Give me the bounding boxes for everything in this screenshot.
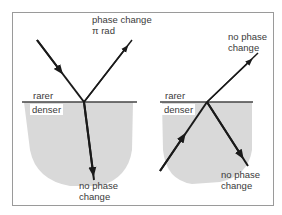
right-panel bbox=[160, 53, 258, 184]
transmitted-label-right-line2: change bbox=[228, 42, 259, 53]
transmitted-label-left-line1: no phase bbox=[79, 180, 118, 191]
arrow-icon bbox=[84, 48, 126, 102]
reflected-label-left-line1: phase change bbox=[92, 14, 152, 25]
reflected-label-right-line1: no phase bbox=[221, 169, 260, 180]
rarer-label-left: rarer bbox=[33, 90, 53, 101]
arrow-icon bbox=[37, 40, 60, 71]
reflected-label-left-line2: π rad bbox=[92, 25, 115, 36]
transmitted-label-left-line2: change bbox=[79, 191, 110, 202]
transmitted-label-right-line1: no phase bbox=[228, 31, 267, 42]
reflected-label-right-line2: change bbox=[221, 180, 252, 191]
denser-label-left: denser bbox=[30, 104, 63, 115]
rarer-label-right: rarer bbox=[165, 90, 185, 101]
arrow-icon bbox=[207, 61, 250, 102]
denser-label-right: denser bbox=[162, 104, 195, 115]
